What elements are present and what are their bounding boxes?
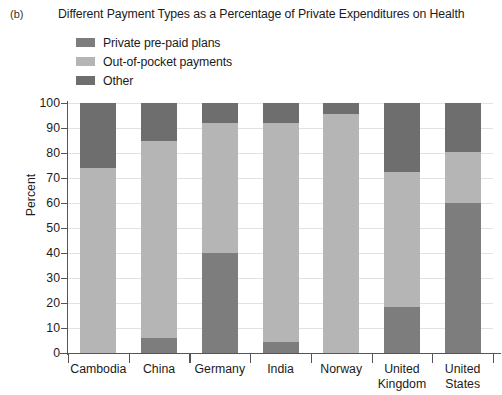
y-axis-ticks: 0102030405060708090100: [20, 103, 60, 353]
x-axis-label-norway: Norway: [311, 362, 372, 377]
y-axis-tick-mark: [61, 178, 67, 179]
bar-segment-out-of-pocket-payments[interactable]: [323, 114, 359, 353]
bar-segment-out-of-pocket-payments[interactable]: [141, 141, 177, 339]
x-axis-label-germany: Germany: [189, 362, 250, 377]
y-axis-tick-label: 40: [20, 246, 60, 260]
bar-norway[interactable]: [323, 103, 359, 353]
y-axis-tick-label: 80: [20, 146, 60, 160]
y-axis-tick-mark: [61, 128, 67, 129]
y-axis-tick-mark: [61, 103, 67, 104]
y-axis-tick-mark: [61, 278, 67, 279]
y-axis-tick-mark: [61, 353, 67, 354]
bar-segment-other[interactable]: [384, 103, 420, 172]
y-axis-tick-label: 60: [20, 196, 60, 210]
bar-segment-private-pre-paid-plans[interactable]: [263, 342, 299, 353]
y-axis-tick-label: 20: [20, 296, 60, 310]
y-axis-tick-mark: [61, 253, 67, 254]
y-axis-tick-label: 0: [20, 346, 60, 360]
bar-segment-other[interactable]: [263, 103, 299, 123]
bar-germany[interactable]: [202, 103, 238, 353]
x-axis-label-china: China: [129, 362, 190, 377]
bar-united-states[interactable]: [445, 103, 481, 353]
bar-segment-out-of-pocket-payments[interactable]: [384, 172, 420, 307]
y-axis-tick-label: 30: [20, 271, 60, 285]
x-axis-label-cambodia: Cambodia: [68, 362, 129, 377]
bars-container: [68, 103, 493, 353]
bar-china[interactable]: [141, 103, 177, 353]
y-axis-tick-mark: [61, 153, 67, 154]
bar-segment-private-pre-paid-plans[interactable]: [141, 338, 177, 353]
x-axis-labels: CambodiaChinaGermanyIndiaNorwayUnited Ki…: [68, 362, 493, 394]
y-axis-tick-label: 50: [20, 221, 60, 235]
x-axis-label-india: India: [250, 362, 311, 377]
bar-segment-other[interactable]: [323, 103, 359, 114]
y-axis-tick-label: 90: [20, 121, 60, 135]
y-axis-tick-mark: [61, 228, 67, 229]
bar-segment-other[interactable]: [141, 103, 177, 141]
bar-segment-other[interactable]: [202, 103, 238, 123]
bar-segment-other[interactable]: [80, 103, 116, 168]
bar-segment-out-of-pocket-payments[interactable]: [263, 123, 299, 342]
bar-segment-other[interactable]: [445, 103, 481, 152]
bar-united-kingdom[interactable]: [384, 103, 420, 353]
bar-segment-private-pre-paid-plans[interactable]: [384, 307, 420, 353]
y-axis-tick-mark: [61, 203, 67, 204]
bar-segment-private-pre-paid-plans[interactable]: [445, 203, 481, 353]
y-axis-tick-mark: [61, 303, 67, 304]
bar-segment-out-of-pocket-payments[interactable]: [202, 123, 238, 253]
y-axis-tick-label: 70: [20, 171, 60, 185]
bar-segment-out-of-pocket-payments[interactable]: [445, 152, 481, 203]
bar-india[interactable]: [263, 103, 299, 353]
bar-segment-out-of-pocket-payments[interactable]: [80, 168, 116, 353]
y-axis-tick-label: 100: [20, 96, 60, 110]
y-axis-tick-label: 10: [20, 321, 60, 335]
bar-segment-private-pre-paid-plans[interactable]: [202, 253, 238, 353]
y-axis-tick-mark: [61, 328, 67, 329]
bar-cambodia[interactable]: [80, 103, 116, 353]
x-axis-tick-mark: [493, 354, 494, 363]
chart-plot-area: Percent 0102030405060708090100 CambodiaC…: [0, 0, 502, 395]
x-axis-label-united-states: United States: [432, 362, 493, 391]
x-axis-label-united-kingdom: United Kingdom: [372, 362, 433, 391]
